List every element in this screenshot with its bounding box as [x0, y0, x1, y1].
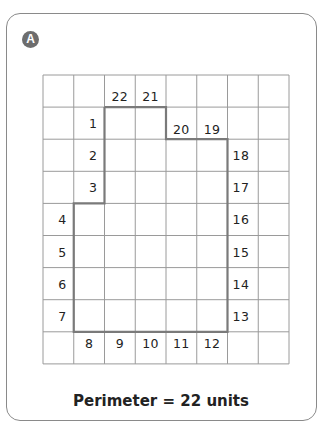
perimeter-count-label: 21	[142, 89, 159, 104]
perimeter-count-label: 7	[58, 309, 66, 324]
perimeter-count-label: 15	[233, 245, 250, 260]
perimeter-count-label: 3	[89, 180, 97, 195]
perimeter-count-label: 17	[233, 180, 250, 195]
perimeter-count-label: 14	[233, 277, 250, 292]
perimeter-count-label: 22	[111, 89, 128, 104]
perimeter-count-label: 16	[233, 212, 250, 227]
perimeter-count-label: 10	[142, 336, 159, 351]
perimeter-count-label: 20	[173, 122, 190, 137]
perimeter-count-label: 11	[173, 336, 190, 351]
shape-outline	[74, 107, 228, 332]
perimeter-caption: Perimeter = 22 units	[0, 392, 322, 410]
perimeter-count-label: 1	[89, 116, 97, 131]
perimeter-count-label: 12	[204, 336, 221, 351]
perimeter-count-label: 5	[58, 245, 66, 260]
perimeter-count-label: 6	[58, 277, 66, 292]
perimeter-count-label: 8	[85, 336, 93, 351]
perimeter-count-label: 18	[233, 148, 250, 163]
grid-diagram: 22211201921831741651561471389101112	[42, 74, 290, 366]
perimeter-count-label: 13	[233, 309, 250, 324]
figure-label-badge: A	[22, 31, 39, 48]
perimeter-count-label: 2	[89, 148, 97, 163]
perimeter-count-label: 4	[58, 212, 66, 227]
perimeter-count-label: 9	[116, 336, 124, 351]
grid-svg: 22211201921831741651561471389101112	[42, 74, 290, 366]
perimeter-count-label: 19	[204, 122, 221, 137]
